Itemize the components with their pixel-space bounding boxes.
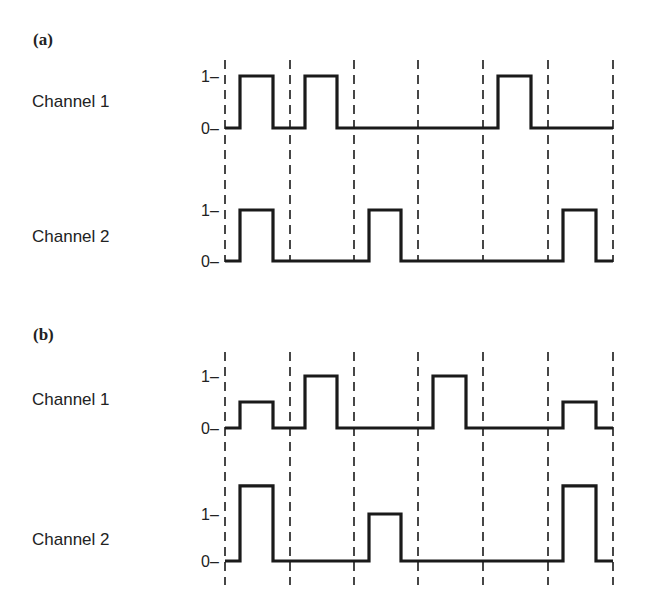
tick-label-one: 1– — [201, 368, 219, 385]
tick-label-zero: 0– — [201, 420, 219, 437]
panel-b-channel-1-waveform — [225, 376, 613, 428]
panel-a-channel-1-waveform — [225, 76, 613, 128]
tick-label-one: 1– — [201, 202, 219, 219]
tick-label-zero: 0– — [201, 253, 219, 270]
waveform-diagram: 1–0–1–0–1–0–1–0– — [0, 0, 646, 591]
tick-label-one: 1– — [201, 68, 219, 85]
tick-label-zero: 0– — [201, 553, 219, 570]
panel-a-channel-2-waveform — [225, 210, 613, 261]
tick-label-one: 1– — [201, 506, 219, 523]
panel-b-channel-2-waveform — [225, 486, 613, 561]
tick-label-zero: 0– — [201, 120, 219, 137]
